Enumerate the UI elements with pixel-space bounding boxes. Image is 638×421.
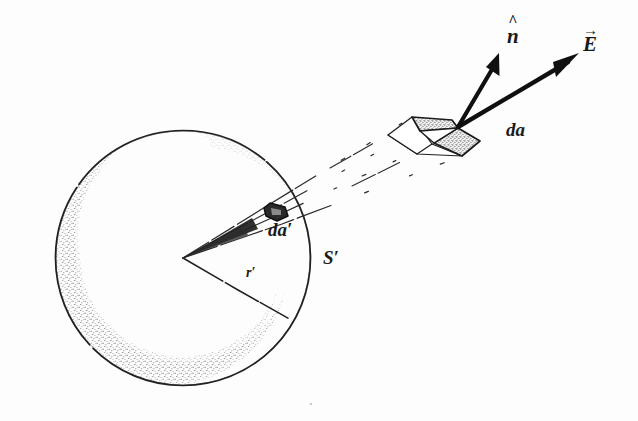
cone-apex-wedge-2 — [183, 227, 248, 258]
field-vector-shaft — [458, 62, 568, 127]
field-vector-label: → E — [583, 34, 597, 55]
vector-accent-icon: → — [583, 23, 597, 38]
area-element-label: da — [506, 120, 525, 139]
da-box-guide-2 — [352, 154, 417, 186]
normal-vector-label: ^ n — [507, 26, 519, 47]
physics-diagram — [0, 0, 638, 421]
da-box-guide-1 — [330, 135, 388, 168]
radius-line-group — [183, 258, 293, 321]
cone-apex-wedge — [183, 218, 258, 258]
sphere-surface-label: S′ — [323, 248, 339, 267]
figure-canvas: ^ n → E da da′ S′ r′ — [0, 0, 638, 421]
radius-line — [183, 258, 293, 321]
hat-accent-icon: ^ — [508, 13, 517, 29]
vectors-group — [458, 53, 579, 127]
field-vector-arrowhead — [553, 53, 579, 77]
radius-label: r′ — [246, 266, 255, 280]
sphere-shading — [56, 133, 306, 385]
projected-area-element-label: da′ — [268, 220, 292, 239]
scan-speck — [310, 403, 312, 405]
